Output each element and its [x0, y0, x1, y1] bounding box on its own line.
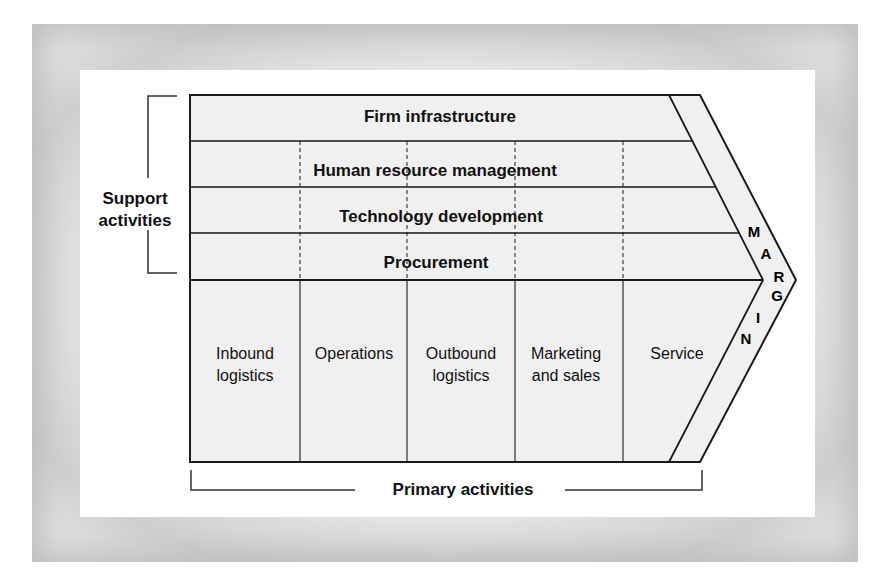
support-label-line1: Support — [82, 188, 188, 210]
support-row-procurement: Procurement — [384, 253, 489, 273]
margin-letter-r: R — [774, 268, 785, 285]
primary-label-line2: logistics — [216, 365, 274, 387]
primary-outbound-logistics: Outbound logistics — [426, 343, 496, 387]
primary-activities-label: Primary activities — [393, 480, 534, 500]
margin-letter-i: I — [756, 309, 760, 326]
primary-label-line2: and sales — [531, 365, 601, 387]
primary-inbound-logistics: Inbound logistics — [216, 343, 274, 387]
primary-label-line1: Operations — [315, 343, 393, 365]
primary-label-line2: logistics — [426, 365, 496, 387]
primary-label-line1: Outbound — [426, 343, 496, 365]
primary-bracket-right — [565, 470, 702, 490]
margin-letter-n: N — [741, 330, 752, 347]
primary-service: Service — [650, 343, 703, 365]
support-row-technology-development: Technology development — [339, 207, 543, 227]
primary-bracket-left — [191, 470, 355, 490]
support-row-firm-infrastructure: Firm infrastructure — [364, 107, 516, 127]
support-label-line2: activities — [82, 210, 188, 232]
support-activities-label: Support activities — [82, 188, 188, 232]
support-row-human-resource-management: Human resource management — [313, 161, 557, 181]
primary-label-line1: Inbound — [216, 343, 274, 365]
margin-letter-g: G — [771, 287, 783, 304]
primary-marketing-and-sales: Marketing and sales — [531, 343, 601, 387]
primary-operations: Operations — [315, 343, 393, 365]
diagram-fill — [190, 95, 796, 462]
primary-label-line1: Service — [650, 343, 703, 365]
primary-label-line1: Marketing — [531, 343, 601, 365]
margin-letter-m: M — [748, 223, 761, 240]
margin-letter-a: A — [761, 245, 772, 262]
